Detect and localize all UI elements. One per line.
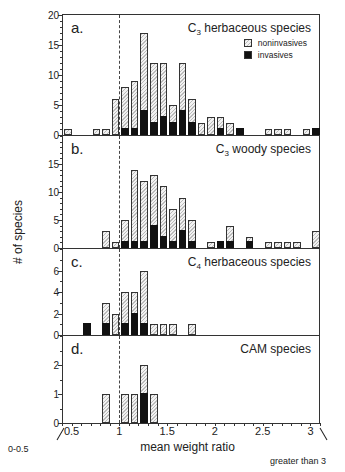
x-tick-label: 2 xyxy=(212,425,218,437)
invasive-segment xyxy=(160,116,168,135)
histogram-bar xyxy=(179,63,187,135)
y-tick-label: 0 xyxy=(53,418,59,429)
invasive-segment xyxy=(150,225,158,248)
y-tick-mark xyxy=(60,181,63,182)
invasive-segment xyxy=(188,122,196,135)
x-tick-label: 1.5 xyxy=(159,425,174,437)
panel-a: a.C3 herbaceous speciesnoninvasivesinvas… xyxy=(62,14,320,136)
x-tick-mark xyxy=(263,423,264,426)
x-tick-mark xyxy=(253,423,254,426)
panel-label: d. xyxy=(71,340,84,357)
x-tick-label: 3 xyxy=(307,425,313,437)
x-tick-mark xyxy=(320,423,321,426)
invasive-segment xyxy=(83,323,91,335)
histogram-bar xyxy=(140,181,148,248)
y-tick-mark xyxy=(60,303,63,304)
invasive-segment xyxy=(217,241,225,248)
x-tick-mark xyxy=(196,423,197,426)
y-tick-mark xyxy=(60,21,63,22)
x-tick-mark xyxy=(282,423,283,426)
reference-line xyxy=(119,136,120,248)
y-tick-label: 2 xyxy=(53,360,59,371)
y-tick-mark xyxy=(60,209,63,210)
legend-item-noninvasives: noninvasives xyxy=(244,37,307,49)
y-tick-mark xyxy=(60,231,63,232)
y-tick-mark xyxy=(60,99,63,100)
histogram-bar xyxy=(179,198,187,248)
panel-title: C3 herbaceous species xyxy=(188,21,311,37)
histogram-bar xyxy=(160,186,168,248)
panel-label: b. xyxy=(71,140,84,157)
histogram-bar xyxy=(140,33,148,135)
y-tick-mark xyxy=(60,51,63,52)
annotation-left: 0-0.5 xyxy=(8,444,29,454)
y-tick-mark xyxy=(60,170,63,171)
panel-c: c.C4 herbaceous species xyxy=(62,248,320,336)
histogram-bar xyxy=(121,394,129,423)
y-tick-label: 0 xyxy=(53,130,59,141)
histogram-bar xyxy=(150,63,158,135)
invasive-segment xyxy=(131,128,139,135)
y-tick-label: 1 xyxy=(53,389,59,400)
x-tick-mark xyxy=(100,423,101,426)
y-tick-mark xyxy=(60,198,63,199)
histogram-bar xyxy=(188,220,196,248)
x-tick-mark xyxy=(110,423,111,426)
legend-item-invasives: invasives xyxy=(244,49,307,61)
histogram-bar xyxy=(217,117,225,135)
y-axis-label: # of species xyxy=(11,200,25,264)
legend-label: invasives xyxy=(258,49,293,61)
histogram-bar xyxy=(112,99,120,135)
invasive-segment xyxy=(131,313,139,336)
histogram-bar xyxy=(188,99,196,135)
y-tick-mark xyxy=(60,33,63,34)
y-tick-mark xyxy=(60,87,63,88)
invasive-segment xyxy=(217,128,225,135)
invasive-segment xyxy=(246,241,254,248)
x-tick-mark xyxy=(167,423,168,426)
y-tick-mark xyxy=(60,153,63,154)
panel-label: c. xyxy=(71,253,83,270)
invasive-segment xyxy=(169,122,177,135)
y-tick-label: 6 xyxy=(53,265,59,276)
y-tick-mark xyxy=(60,57,63,58)
invasive-segment xyxy=(179,230,187,248)
histogram-bar xyxy=(83,324,91,335)
y-tick-label: 15 xyxy=(48,159,59,170)
histogram-bar xyxy=(140,365,148,423)
x-tick-mark xyxy=(158,423,159,426)
y-tick-mark xyxy=(60,117,63,118)
y-tick-mark xyxy=(60,324,63,325)
histogram-bar xyxy=(312,231,320,248)
y-tick-label: 4 xyxy=(53,287,59,298)
y-tick-label: 2 xyxy=(53,308,59,319)
y-tick-mark xyxy=(60,214,63,215)
reference-line xyxy=(119,15,120,135)
y-tick-mark xyxy=(60,203,63,204)
y-tick-mark xyxy=(60,111,63,112)
x-tick-mark xyxy=(91,423,92,426)
x-tick-mark xyxy=(148,423,149,426)
legend-swatch-icon xyxy=(244,39,252,47)
histogram-bar xyxy=(160,324,168,335)
histogram-bar xyxy=(121,87,129,135)
y-tick-mark xyxy=(60,226,63,227)
y-tick-mark xyxy=(60,123,63,124)
panel-title: C4 herbaceous species xyxy=(188,255,311,271)
x-tick-mark xyxy=(62,423,63,426)
y-tick-label: 20 xyxy=(48,10,59,21)
histogram-bar xyxy=(226,226,234,248)
histogram-bar xyxy=(112,314,120,336)
histogram-bar xyxy=(131,394,139,423)
histogram-bar xyxy=(246,237,254,248)
invasive-segment xyxy=(160,236,168,248)
invasive-segment xyxy=(169,241,177,248)
histogram-bar xyxy=(169,324,177,335)
invasive-segment xyxy=(150,122,158,135)
x-tick-label: 1 xyxy=(116,425,122,437)
y-tick-mark xyxy=(60,249,63,250)
histogram-bar xyxy=(207,117,215,135)
invasive-segment xyxy=(179,110,187,135)
x-tick-mark xyxy=(72,423,73,426)
histogram-bar xyxy=(188,324,196,335)
